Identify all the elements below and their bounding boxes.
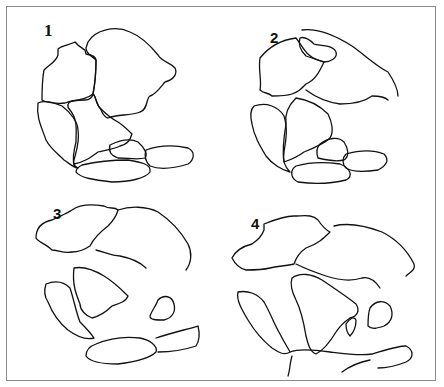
landmass-outline	[73, 267, 128, 318]
landmass-outline	[343, 151, 387, 171]
landmass-outline	[118, 207, 191, 270]
panel-1-label: 1	[44, 22, 53, 39]
landmass-outline	[291, 274, 358, 354]
panel-1-continents	[38, 29, 194, 182]
landmass-outline	[342, 360, 370, 372]
landmass-outline	[86, 337, 156, 364]
landmass-outline	[334, 224, 414, 276]
landmass-outline	[346, 318, 356, 336]
panel-2-continents	[251, 30, 398, 184]
landmass-outline	[156, 326, 199, 352]
landmass-outline	[259, 38, 324, 96]
landmass-outline	[45, 282, 94, 339]
landmass-outline	[306, 90, 388, 104]
landmass-outline	[238, 291, 290, 353]
landmass-outline	[150, 297, 175, 320]
landmass-outline	[283, 98, 332, 162]
landmass-outline	[296, 264, 380, 288]
landmass-outline	[36, 205, 118, 253]
landmass-outline	[42, 42, 96, 103]
panel-4-continents	[232, 216, 414, 376]
landmass-outline	[290, 346, 412, 368]
landmass-outline	[302, 30, 398, 96]
landmass-outline	[76, 160, 150, 182]
panel-3-label: 3	[53, 206, 61, 221]
landmass-outline	[288, 356, 292, 376]
panel-2-label: 2	[270, 30, 278, 45]
landmass-outline	[368, 302, 392, 329]
continental-drift-diagram	[0, 0, 444, 387]
landmass-outline	[292, 163, 351, 184]
panel-4-label: 4	[251, 216, 259, 231]
panel-3-continents	[36, 205, 199, 364]
landmass-outline	[232, 216, 330, 270]
landmass-outline	[86, 29, 176, 118]
landmass-outline	[145, 146, 193, 168]
landmass-outline	[96, 250, 146, 268]
landmass-outline	[38, 102, 79, 168]
